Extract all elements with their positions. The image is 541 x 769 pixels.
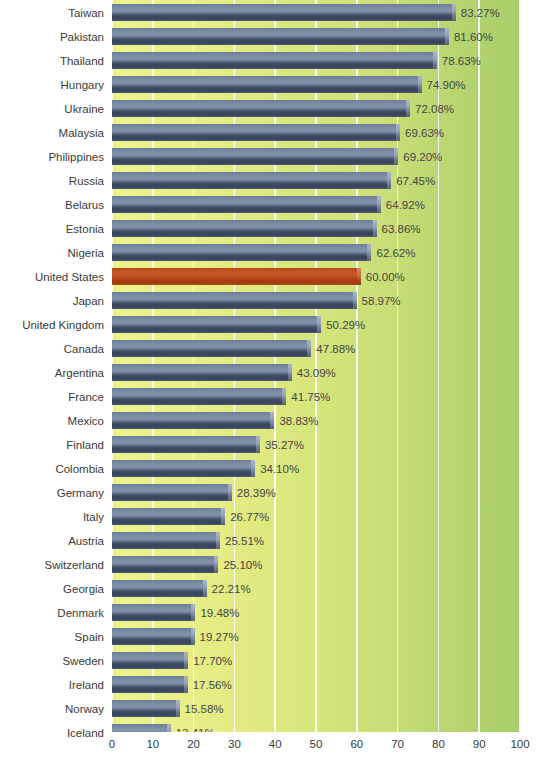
category-label-malaysia: Malaysia [59,121,104,145]
x-tick-label-90: 90 [473,738,486,750]
x-tick-label-100: 100 [510,738,529,750]
bar-argentina[interactable] [112,364,288,381]
bar-row: 69.63% [112,121,520,145]
bar-end-cap [221,508,225,525]
bar-fill [112,604,191,621]
bar-fill [112,268,357,285]
bar-canada[interactable] [112,340,307,357]
bar-end-cap [418,76,422,93]
bar-mexico[interactable] [112,412,270,429]
bar-value-label: 58.97% [362,289,401,313]
bar-end-cap [367,244,371,261]
bar-ukraine[interactable] [112,100,406,117]
category-label-united-kingdom: United Kingdom [22,313,104,337]
bar-united-kingdom[interactable] [112,316,317,333]
bar-row: 25.51% [112,529,520,553]
bar-hungary[interactable] [112,76,418,93]
bar-end-cap [191,604,195,621]
bar-row: 58.97% [112,289,520,313]
category-label-mexico: Mexico [68,409,104,433]
category-label-pakistan: Pakistan [60,25,104,49]
bar-value-label: 69.20% [403,145,442,169]
bar-taiwan[interactable] [112,4,452,21]
category-label-ireland: Ireland [69,673,104,697]
bar-fill [112,364,288,381]
bar-spain[interactable] [112,628,191,645]
bar-value-label: 60.00% [366,265,405,289]
bar-fill [112,292,353,309]
bar-fill [112,484,228,501]
bar-belarus[interactable] [112,196,377,213]
plot-area: 83.27%81.60%78.63%74.90%72.08%69.63%69.2… [112,0,520,732]
bar-row: 41.75% [112,385,520,409]
category-label-hungary: Hungary [61,73,104,97]
bar-end-cap [353,292,357,309]
bar-fill [112,316,317,333]
category-label-germany: Germany [57,481,104,505]
bar-philippines[interactable] [112,148,394,165]
category-label-france: France [68,385,104,409]
bar-row: 62.62% [112,241,520,265]
category-label-nigeria: Nigeria [68,241,104,265]
bar-germany[interactable] [112,484,228,501]
bar-fill [112,700,176,717]
x-tick-label-50: 50 [310,738,323,750]
bar-row: 17.56% [112,673,520,697]
bar-row: 78.63% [112,49,520,73]
bar-sweden[interactable] [112,652,184,669]
bar-value-label: 38.83% [279,409,318,433]
bar-row: 38.83% [112,409,520,433]
bar-row: 83.27% [112,1,520,25]
category-label-norway: Norway [65,697,104,721]
bar-fill [112,412,270,429]
x-tick-label-80: 80 [432,738,445,750]
bar-fill [112,196,377,213]
bar-row: 47.88% [112,337,520,361]
category-label-argentina: Argentina [55,361,104,385]
bar-france[interactable] [112,388,282,405]
bar-fill [112,76,418,93]
x-tick-label-70: 70 [391,738,404,750]
bar-end-cap [228,484,232,501]
bar-united-states[interactable] [112,268,357,285]
bar-fill [112,148,394,165]
bar-value-label: 64.92% [386,193,425,217]
bar-end-cap [357,268,361,285]
bar-finland[interactable] [112,436,256,453]
x-tick-label-20: 20 [187,738,200,750]
bar-norway[interactable] [112,700,176,717]
bar-malaysia[interactable] [112,124,396,141]
bar-nigeria[interactable] [112,244,367,261]
bar-end-cap [377,196,381,213]
bar-fill [112,652,184,669]
category-label-finland: Finland [66,433,104,457]
bar-end-cap [307,340,311,357]
bar-fill [112,532,216,549]
bar-fill [112,4,452,21]
bar-pakistan[interactable] [112,28,445,45]
bar-end-cap [373,220,377,237]
bar-colombia[interactable] [112,460,251,477]
x-axis: 0102030405060708090100 [112,732,520,769]
bar-end-cap [214,556,218,573]
bar-switzerland[interactable] [112,556,214,573]
bar-denmark[interactable] [112,604,191,621]
bar-japan[interactable] [112,292,353,309]
bar-fill [112,340,307,357]
bar-russia[interactable] [112,172,387,189]
bar-italy[interactable] [112,508,221,525]
bar-thailand[interactable] [112,52,433,69]
bar-ireland[interactable] [112,676,184,693]
bar-georgia[interactable] [112,580,203,597]
bar-value-label: 43.09% [297,361,336,385]
bar-fill [112,676,184,693]
bar-fill [112,460,251,477]
bar-estonia[interactable] [112,220,373,237]
bar-value-label: 15.58% [185,697,224,721]
bar-iceland[interactable] [112,724,167,732]
x-tick-label-30: 30 [228,738,241,750]
bar-row: 26.77% [112,505,520,529]
bar-chart: 83.27%81.60%78.63%74.90%72.08%69.63%69.2… [0,0,541,769]
bar-row: 81.60% [112,25,520,49]
bar-austria[interactable] [112,532,216,549]
